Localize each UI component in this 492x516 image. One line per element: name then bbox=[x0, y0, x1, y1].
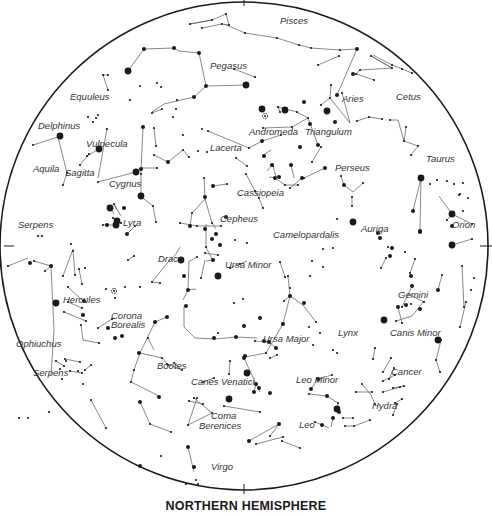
star-medium bbox=[355, 47, 359, 51]
star-small bbox=[133, 255, 135, 257]
constellation-label: Bootes bbox=[157, 360, 187, 371]
star-small bbox=[151, 281, 153, 283]
star-small bbox=[470, 289, 472, 291]
star-small bbox=[317, 64, 319, 66]
star-small bbox=[161, 357, 163, 359]
star-medium bbox=[211, 258, 215, 262]
star-medium bbox=[106, 326, 110, 330]
star-small bbox=[80, 324, 82, 326]
constellation-label: Ursa Major bbox=[263, 333, 310, 344]
constellation-line bbox=[131, 382, 159, 396]
nebula-icon bbox=[262, 113, 267, 118]
star-medium bbox=[218, 243, 222, 247]
star-small bbox=[205, 246, 207, 248]
star-small bbox=[353, 425, 355, 427]
star-small bbox=[217, 254, 219, 256]
star-small bbox=[388, 378, 390, 380]
star-small bbox=[32, 144, 34, 146]
star-small bbox=[299, 447, 301, 449]
star-small bbox=[27, 417, 29, 419]
constellation-label: Canis Minor bbox=[390, 327, 442, 338]
star-small bbox=[338, 55, 340, 57]
constellation-line bbox=[70, 371, 82, 373]
star-small bbox=[244, 32, 246, 34]
star-small bbox=[151, 112, 153, 114]
constellation-line bbox=[360, 68, 392, 70]
star-medium bbox=[138, 400, 142, 404]
constellation-label: Berenices bbox=[199, 420, 241, 431]
star-medium bbox=[197, 51, 201, 55]
constellation-label: Orion bbox=[452, 219, 475, 230]
star-medium bbox=[404, 303, 408, 307]
constellation-line bbox=[270, 355, 277, 358]
constellation-line bbox=[33, 137, 67, 185]
star-small bbox=[106, 128, 108, 130]
star-small bbox=[223, 405, 225, 407]
star-small bbox=[429, 183, 431, 185]
star-small bbox=[381, 118, 383, 120]
star-medium bbox=[325, 394, 329, 398]
constellation-line bbox=[362, 384, 371, 395]
star-small bbox=[369, 419, 371, 421]
star-small bbox=[61, 378, 63, 380]
star-medium bbox=[254, 382, 258, 386]
star-small bbox=[81, 307, 83, 309]
constellation-line bbox=[236, 158, 247, 166]
star-small bbox=[69, 370, 71, 372]
constellation-line bbox=[280, 262, 285, 277]
star-small bbox=[225, 13, 227, 15]
star-small bbox=[373, 79, 375, 81]
star-large bbox=[449, 211, 456, 218]
star-large bbox=[125, 68, 132, 75]
constellation-label: Camelopardalis bbox=[273, 229, 339, 240]
constellation-line bbox=[413, 178, 421, 211]
star-small bbox=[196, 397, 198, 399]
constellation-line bbox=[180, 223, 221, 226]
star-small bbox=[217, 332, 219, 334]
star-small bbox=[79, 164, 81, 166]
constellation-line bbox=[91, 400, 106, 428]
star-small bbox=[446, 180, 448, 182]
star-small bbox=[92, 121, 94, 123]
constellation-label: Serpens bbox=[18, 219, 54, 230]
star-medium bbox=[410, 284, 414, 288]
star-small bbox=[342, 417, 344, 419]
star-small bbox=[185, 483, 187, 485]
constellation-line bbox=[411, 146, 418, 155]
star-medium bbox=[120, 334, 124, 338]
star-small bbox=[385, 257, 387, 259]
star-small bbox=[423, 301, 425, 303]
star-small bbox=[226, 183, 228, 185]
star-small bbox=[155, 221, 157, 223]
star-medium bbox=[302, 301, 306, 305]
star-small bbox=[242, 298, 244, 300]
star-small bbox=[44, 270, 46, 272]
star-small bbox=[196, 256, 198, 258]
star-small bbox=[102, 74, 104, 76]
star-medium bbox=[388, 254, 392, 258]
constellation-line bbox=[309, 394, 338, 409]
constellation-line bbox=[282, 441, 300, 448]
constellation-line bbox=[205, 199, 216, 229]
constellation-label: Delphinus bbox=[38, 120, 80, 131]
constellation-line bbox=[188, 257, 197, 262]
constellation-line bbox=[304, 168, 325, 178]
star-small bbox=[255, 443, 257, 445]
star-small bbox=[182, 149, 184, 151]
star-medium bbox=[138, 464, 142, 468]
star-medium bbox=[309, 387, 313, 391]
star-small bbox=[332, 247, 334, 249]
constellation-line bbox=[438, 275, 442, 290]
star-small bbox=[170, 431, 172, 433]
constellation-label: Leo Minor bbox=[296, 374, 339, 385]
star-small bbox=[399, 386, 401, 388]
star-small bbox=[352, 417, 354, 419]
constellation-label: Cassiopeia bbox=[237, 187, 284, 198]
star-small bbox=[77, 370, 79, 372]
star-medium bbox=[182, 274, 186, 278]
star-medium bbox=[139, 167, 143, 171]
star-small bbox=[149, 423, 151, 425]
constellation-line bbox=[420, 178, 421, 231]
constellation-line bbox=[144, 48, 206, 112]
star-medium bbox=[323, 166, 327, 170]
